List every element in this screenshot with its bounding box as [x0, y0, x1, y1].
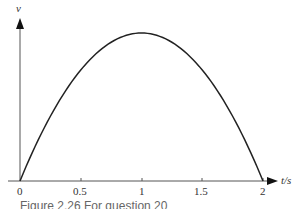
x-tick-label-2: 2: [260, 185, 266, 197]
x-tick-label-0.5: 0.5: [73, 185, 87, 197]
y-axis-arrow-icon: [16, 18, 24, 29]
x-tick-label-1: 1: [139, 185, 145, 197]
figure-caption: Figure 2.26 For question 20: [20, 199, 167, 209]
y-axis-label: v: [16, 2, 21, 14]
x-axis-arrow-icon: [267, 177, 278, 185]
x-axis-label: t/s: [281, 174, 291, 186]
velocity-time-chart: [0, 0, 296, 209]
velocity-curve: [20, 33, 263, 181]
x-tick-label-1.5: 1.5: [194, 185, 208, 197]
x-tick-label-0: 0: [17, 185, 23, 197]
